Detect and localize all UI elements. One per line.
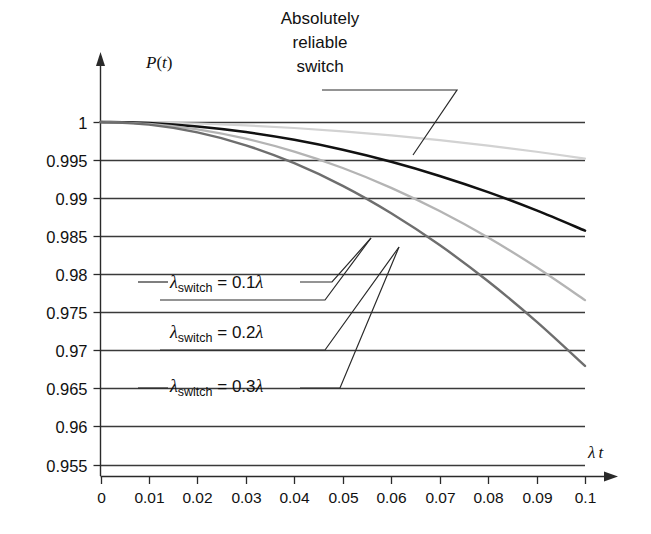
x-tick-label: 0.06 — [376, 489, 406, 506]
annotation-lambda-03-text: λswitch = 0.3λ — [169, 376, 264, 399]
annotation-lambda-01-suffix: λ — [255, 272, 264, 292]
annotation-line-2: reliable — [293, 33, 348, 52]
y-tick-label: 0.995 — [46, 152, 87, 170]
x-tick-label: 0.01 — [134, 489, 164, 506]
annotation-lambda-02-suffix: λ — [255, 322, 264, 342]
reliability-chart: 10.9950.990.9850.980.9750.970.9650.960.9… — [0, 0, 651, 534]
figure-container: 10.9950.990.9850.980.9750.970.9650.960.9… — [0, 0, 651, 534]
x-tick-labels-group: 00.010.020.030.040.050.060.070.080.090.1 — [97, 489, 596, 506]
annotation-lambda-02-equals: = 0.2 — [213, 323, 256, 342]
annotation-lambda-01-text: λswitch = 0.1λ — [169, 272, 264, 295]
annotation-lambda-01-equals: = 0.1 — [213, 273, 256, 292]
y-tick-label: 0.97 — [55, 342, 87, 360]
y-tick-labels-group: 10.9950.990.9850.980.9750.970.9650.960.9… — [46, 114, 87, 475]
annotation-lambda-02-sub: switch — [178, 331, 213, 345]
x-axis-arrowhead — [604, 472, 618, 482]
y-tick-label: 1 — [78, 114, 87, 132]
annotation-lambda-03-equals: = 0.3 — [213, 377, 256, 396]
annotation-line-1: Absolutely — [281, 9, 360, 28]
x-tick-label: 0.02 — [182, 489, 212, 506]
gridlines-group — [101, 123, 586, 466]
y-axis-title-paren-close: ) — [167, 53, 173, 72]
y-axis-title-p: P — [145, 53, 156, 72]
y-tick-label: 0.965 — [46, 380, 87, 398]
y-tick-label: 0.955 — [46, 457, 87, 475]
annotation-lambda-01-lambda: λ — [169, 272, 178, 292]
annotation-lambda-01-sub: switch — [178, 281, 213, 295]
annotation-line-3: switch — [296, 57, 343, 76]
x-axis-title-lambda: λ — [587, 443, 595, 462]
x-axis-title: λt — [587, 443, 604, 462]
leader-right-lambda-01 — [300, 238, 371, 282]
annotation-lambda-02-text: λswitch = 0.2λ — [169, 322, 264, 345]
x-tick-label: 0.08 — [473, 489, 503, 506]
annotation-lambda-03-sub: switch — [178, 385, 213, 399]
y-tick-label: 0.96 — [55, 418, 87, 436]
y-tick-label: 0.985 — [46, 228, 87, 246]
x-tick-label: 0.05 — [328, 489, 358, 506]
y-tick-label: 0.98 — [55, 266, 87, 284]
annotation-lambda-switch-02: λswitch = 0.2λ — [160, 247, 399, 350]
annotation-lambda-switch-01: λswitch = 0.1λ — [138, 238, 371, 300]
x-tick-label: 0.03 — [231, 489, 261, 506]
y-axis — [96, 52, 105, 476]
annotation-lambda-03-lambda: λ — [169, 376, 178, 396]
y-tick-label: 0.99 — [55, 190, 87, 208]
x-tick-label: 0.09 — [522, 489, 552, 506]
annotation-lambda-02-lambda: λ — [169, 322, 178, 342]
y-tick-marks-group — [94, 123, 101, 466]
y-tick-label: 0.975 — [46, 304, 87, 322]
x-axis — [101, 472, 619, 482]
x-tick-marks-group — [102, 477, 586, 485]
x-tick-label: 0 — [97, 489, 106, 506]
y-axis-arrowhead — [96, 52, 105, 66]
curve-series-1 — [101, 122, 586, 231]
x-axis-title-t: t — [598, 443, 604, 462]
x-tick-label: 0.1 — [575, 489, 597, 506]
x-tick-label: 0.07 — [425, 489, 455, 506]
y-axis-title: P(t) — [145, 53, 172, 72]
x-tick-label: 0.04 — [279, 489, 310, 506]
annotation-lambda-03-suffix: λ — [255, 376, 264, 396]
